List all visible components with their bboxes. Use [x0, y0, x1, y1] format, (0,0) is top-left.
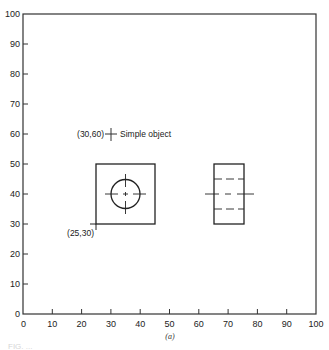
simple-object-label: Simple object: [120, 129, 172, 139]
x-axis-labels: 0 10 20 30 40 50 60 70 80 90 100: [21, 319, 324, 329]
x-tick-label: 60: [194, 319, 204, 329]
x-tick-label: 10: [47, 319, 57, 329]
y-tick-label: 50: [10, 159, 20, 169]
y-tick-label: 100: [5, 9, 20, 19]
x-tick-label: 90: [282, 319, 292, 329]
x-tick-label: 40: [135, 319, 145, 329]
y-tick-label: 40: [10, 189, 20, 199]
y-tick-label: 60: [10, 129, 20, 139]
circle-centerlines: [105, 174, 146, 214]
y-tick-label: 70: [10, 99, 20, 109]
faint-caption: FIG. ...: [8, 342, 32, 350]
y-tick-label: 30: [10, 219, 20, 229]
x-tick-label: 0: [21, 319, 26, 329]
y-tick-label: 20: [10, 249, 20, 259]
x-tick-label: 30: [106, 319, 116, 329]
y-tick-label: 80: [10, 69, 20, 79]
y-tick-label: 90: [10, 39, 20, 49]
x-tick-label: 20: [77, 319, 87, 329]
x-tick-label: 100: [308, 319, 323, 329]
x-tick-label: 80: [252, 319, 262, 329]
corner-coordinate-label: (25,30): [67, 228, 94, 238]
figure-sublabel: (a): [165, 332, 175, 341]
y-axis-labels: 0 10 20 30 40 50 60 70 80 90 100: [5, 9, 20, 319]
x-tick-label: 70: [223, 319, 233, 329]
point-coordinate-label: (30,60): [77, 129, 104, 139]
y-tick-label: 10: [10, 279, 20, 289]
plot-frame: [23, 14, 316, 314]
coordinate-diagram: 0 10 20 30 40 50 60 70 80 90 100 0 10 20…: [0, 0, 329, 350]
x-tick-label: 50: [164, 319, 174, 329]
y-axis-ticks: [23, 44, 28, 284]
x-axis-ticks: [52, 309, 286, 314]
y-tick-label: 0: [15, 309, 20, 319]
simple-object-marker: [105, 128, 117, 141]
